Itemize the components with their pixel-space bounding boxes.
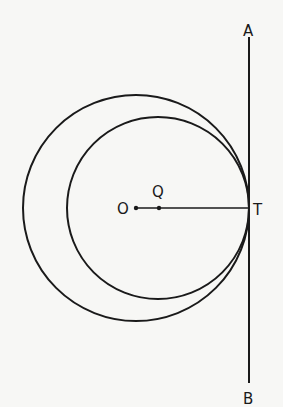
label-Q: Q [152, 183, 164, 201]
point-Q-dot [157, 206, 161, 210]
label-O: O [117, 200, 129, 218]
point-O-dot [134, 206, 138, 210]
label-B: B [243, 390, 253, 407]
label-T: T [252, 201, 263, 219]
label-A: A [243, 22, 254, 40]
diagram-canvas: A B O Q T [0, 0, 283, 407]
geometry-figure: A B O Q T [0, 0, 283, 407]
